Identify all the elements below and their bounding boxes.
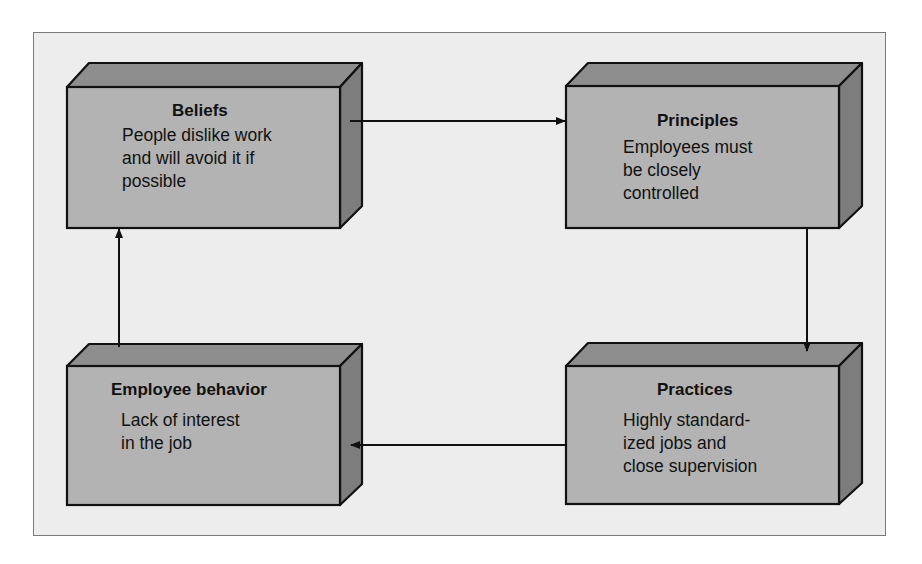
- diagram-canvas: [0, 0, 922, 564]
- beliefs-box: Beliefs People dislike work and will avo…: [67, 100, 340, 193]
- employee-behavior-title: Employee behavior: [111, 379, 340, 401]
- practices-box: Practices Highly standard- ized jobs and…: [566, 379, 839, 478]
- principles-body: Employees must be closely controlled: [623, 136, 839, 205]
- practices-body: Highly standard- ized jobs and close sup…: [623, 409, 839, 478]
- employee-behavior-box: Employee behavior Lack of interest in th…: [67, 379, 340, 455]
- beliefs-title: Beliefs: [122, 100, 340, 122]
- employee-behavior-body: Lack of interest in the job: [111, 409, 340, 455]
- practices-title: Practices: [623, 379, 839, 401]
- principles-box: Principles Employees must be closely con…: [566, 110, 839, 205]
- beliefs-body: People dislike work and will avoid it if…: [122, 124, 340, 193]
- principles-title: Principles: [623, 110, 839, 132]
